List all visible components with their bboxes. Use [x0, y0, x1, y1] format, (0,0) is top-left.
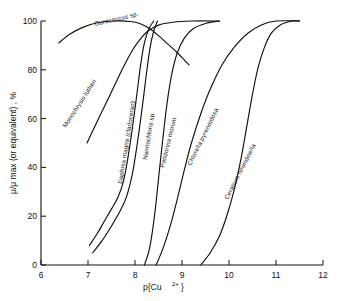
x-axis-title-close: }: [181, 282, 184, 292]
curve-label: Ourococcus sp.: [94, 10, 140, 27]
x-tick-label: 10: [224, 270, 234, 280]
x-axis-title-main: p{Cu: [143, 282, 162, 292]
x-axis-ticks: 6789101112: [39, 260, 328, 280]
y-tick-label: 100: [23, 16, 37, 26]
y-tick-label: 40: [28, 162, 38, 172]
x-tick-label: 12: [318, 270, 328, 280]
y-tick-label: 60: [28, 114, 38, 124]
x-tick-label: 7: [86, 270, 91, 280]
curve-label: Ceratium hirundinella: [223, 142, 257, 200]
y-axis-title: μ/μ max (or equivalent) , %: [8, 92, 18, 194]
curve-daphnia-magna-cladoceran: [89, 21, 153, 245]
curve-chlorella-pyrenoidosa: [156, 21, 299, 265]
curve-ourococcus-sp: [59, 21, 189, 65]
curve-label: Pandorina morum: [158, 117, 177, 169]
x-axis-title: p{Cu 2+ }: [143, 281, 184, 292]
x-tick-label: 8: [133, 270, 138, 280]
copper-sensitivity-chart: 6789101112 020406080100 Ourococcus sp.Mo…: [0, 0, 342, 301]
curve-label: Monochrysis lutheri: [61, 78, 97, 129]
data-curves: [59, 21, 300, 265]
x-tick-label: 6: [39, 270, 44, 280]
y-tick-label: 0: [32, 260, 37, 270]
curve-label: Nannochloris sp.: [141, 111, 156, 160]
y-axis-ticks: 020406080100: [23, 16, 46, 270]
x-tick-label: 11: [272, 270, 281, 280]
x-axis-title-superscript: 2+: [172, 281, 179, 287]
y-tick-label: 80: [28, 65, 38, 75]
x-tick-label: 9: [180, 270, 185, 280]
curve-label: Chlorella pyrenoidosa: [186, 106, 220, 166]
y-tick-label: 20: [28, 211, 38, 221]
figure-container: 6789101112 020406080100 Ourococcus sp.Mo…: [0, 0, 342, 301]
